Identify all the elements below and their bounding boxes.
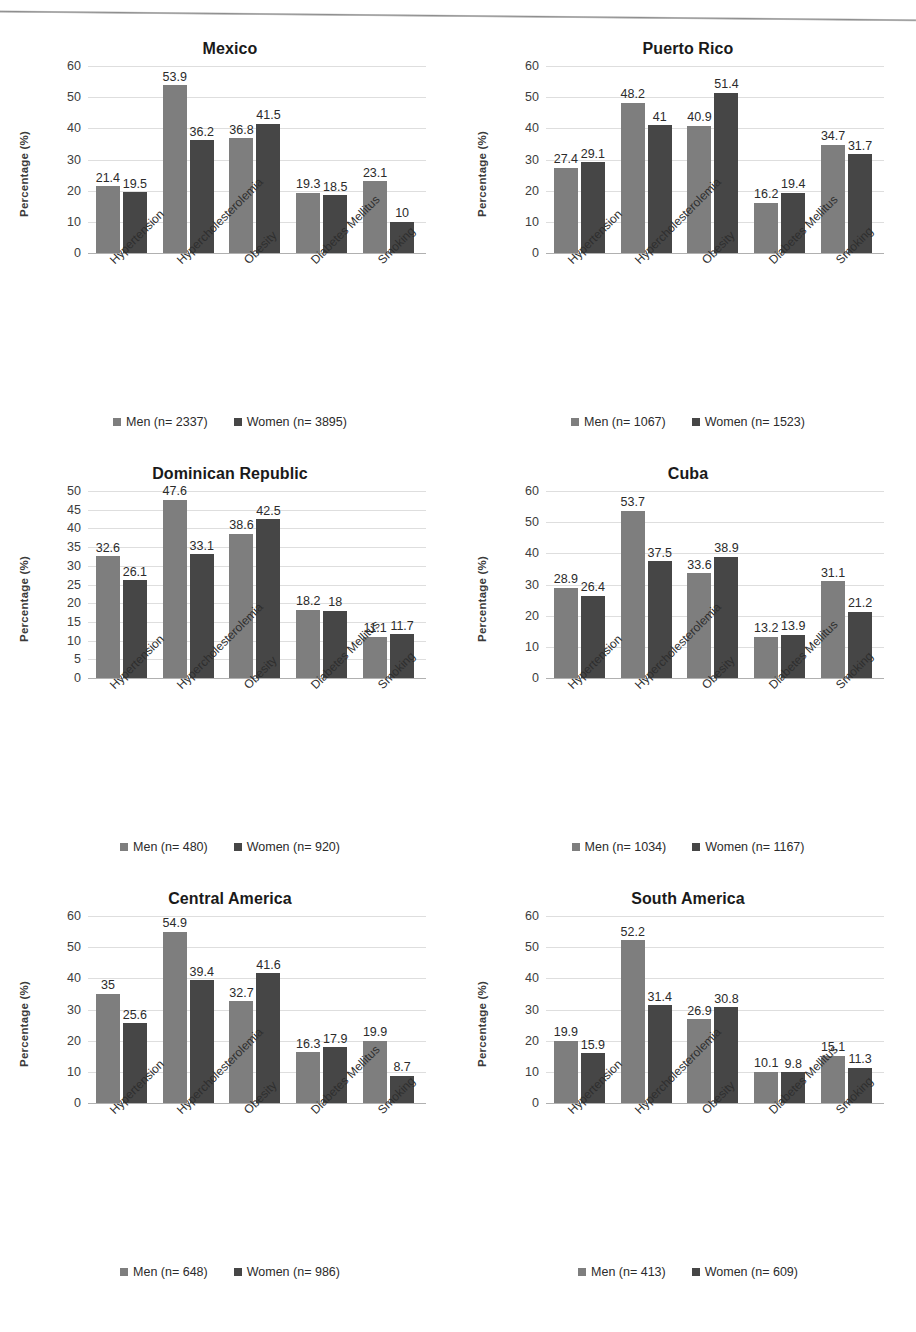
bar-women[interactable]: 11.7 <box>390 491 414 678</box>
x-axis-tick: Hypertension <box>546 678 613 700</box>
plot-area: Percentage (%)010203040506019.915.952.23… <box>488 910 888 1125</box>
bar-men[interactable]: 19.9 <box>363 916 387 1103</box>
bar-value-label: 34.7 <box>821 130 845 143</box>
y-axis-tick: 10 <box>67 215 81 229</box>
bar-men[interactable]: 18.2 <box>296 491 320 678</box>
bar-value-label: 54.9 <box>163 917 187 930</box>
bar-women[interactable]: 8.7 <box>390 916 414 1103</box>
bar-men[interactable]: 47.6 <box>163 491 187 678</box>
bar-men[interactable]: 16.3 <box>296 916 320 1103</box>
bar-men[interactable]: 35 <box>96 916 120 1103</box>
bar-men[interactable]: 34.7 <box>821 66 845 253</box>
bar-women[interactable]: 31.7 <box>848 66 872 253</box>
bar-fill <box>96 556 120 678</box>
y-axis-tick: 40 <box>525 971 539 985</box>
y-axis-label: Percentage (%) <box>18 949 30 1099</box>
bar-women[interactable]: 42.5 <box>256 491 280 678</box>
y-axis-tick: 0 <box>532 1096 539 1110</box>
bar-fill <box>296 1052 320 1103</box>
chart-panel-puerto-rico: Puerto RicoPercentage (%)010203040506027… <box>460 26 916 451</box>
bar-men[interactable]: 33.6 <box>687 491 711 678</box>
bar-men[interactable]: 32.6 <box>96 491 120 678</box>
bar-value-label: 10.1 <box>754 1057 778 1070</box>
y-axis-tick: 20 <box>525 184 539 198</box>
legend-item-women[interactable]: Women (n= 1167) <box>692 840 804 854</box>
bar-fill <box>554 1041 578 1103</box>
bar-value-label: 31.1 <box>821 567 845 580</box>
x-axis-tick: Hypercholesterolemia <box>613 1103 680 1125</box>
y-axis-tick: 40 <box>67 521 81 535</box>
bar-men[interactable]: 54.9 <box>163 916 187 1103</box>
bar-value-label: 41.5 <box>256 109 280 122</box>
x-axis-tick: Smoking <box>813 678 880 700</box>
bar-men[interactable]: 13.2 <box>754 491 778 678</box>
bar-women[interactable]: 41.6 <box>256 916 280 1103</box>
y-axis-tick: 20 <box>525 1034 539 1048</box>
y-axis-tick: 25 <box>67 578 81 592</box>
x-axis-tick: Diabetes Mellitus <box>746 678 813 700</box>
bar-men[interactable]: 31.1 <box>821 491 845 678</box>
bar-men[interactable]: 16.2 <box>754 66 778 253</box>
bar-men[interactable]: 19.3 <box>296 66 320 253</box>
bar-men[interactable]: 27.4 <box>554 66 578 253</box>
y-axis-tick: 0 <box>532 671 539 685</box>
bar-men[interactable]: 28.9 <box>554 491 578 678</box>
bar-men[interactable]: 11.1 <box>363 491 387 678</box>
bar-women[interactable]: 30.8 <box>714 916 738 1103</box>
bar-value-label: 48.2 <box>621 88 645 101</box>
legend-item-men[interactable]: Men (n= 1067) <box>571 415 666 429</box>
bar-value-label: 18.5 <box>323 181 347 194</box>
bar-value-label: 11.3 <box>848 1053 871 1066</box>
bar-men[interactable]: 23.1 <box>363 66 387 253</box>
x-axis-tick: Smoking <box>813 253 880 275</box>
legend-item-women[interactable]: Women (n= 920) <box>234 840 340 854</box>
plot-area: Percentage (%)0510152025303540455032.626… <box>30 485 430 700</box>
bar-group: 15.111.3 <box>813 916 880 1103</box>
y-axis-tick: 30 <box>67 1003 81 1017</box>
bar-value-label: 17.9 <box>323 1033 347 1046</box>
bar-men[interactable]: 10.1 <box>754 916 778 1103</box>
bar-women[interactable]: 11.3 <box>848 916 872 1103</box>
chart-legend: Men (n= 1034)Women (n= 1167) <box>460 840 916 854</box>
chart-legend: Men (n= 413)Women (n= 609) <box>460 1265 916 1279</box>
bar-women[interactable]: 51.4 <box>714 66 738 253</box>
bar-value-label: 26.1 <box>123 566 147 579</box>
bar-value-label: 47.6 <box>163 485 187 498</box>
bar-fill <box>621 511 645 678</box>
bar-women[interactable]: 41.5 <box>256 66 280 253</box>
legend-item-men[interactable]: Men (n= 2337) <box>113 415 208 429</box>
bar-men[interactable]: 32.7 <box>229 916 253 1103</box>
bar-men[interactable]: 40.9 <box>687 66 711 253</box>
bar-men[interactable]: 53.7 <box>621 491 645 678</box>
x-axis-ticks: HypertensionHypercholesterolemiaObesityD… <box>88 253 422 275</box>
bar-women[interactable]: 21.2 <box>848 491 872 678</box>
bar-men[interactable]: 21.4 <box>96 66 120 253</box>
x-axis-tick: Smoking <box>355 678 422 700</box>
bar-men[interactable]: 53.9 <box>163 66 187 253</box>
bar-men[interactable]: 19.9 <box>554 916 578 1103</box>
legend-label: Men (n= 1067) <box>584 415 666 429</box>
legend-item-men[interactable]: Men (n= 648) <box>120 1265 208 1279</box>
bar-men[interactable]: 52.2 <box>621 916 645 1103</box>
bar-women[interactable]: 38.9 <box>714 491 738 678</box>
bar-women[interactable]: 10 <box>390 66 414 253</box>
legend-swatch-icon <box>692 843 700 851</box>
bar-men[interactable]: 48.2 <box>621 66 645 253</box>
y-axis-tick: 60 <box>67 909 81 923</box>
x-axis-tick: Smoking <box>355 253 422 275</box>
legend-item-women[interactable]: Women (n= 609) <box>692 1265 798 1279</box>
bar-men[interactable]: 38.6 <box>229 491 253 678</box>
legend-label: Men (n= 648) <box>133 1265 208 1279</box>
bar-men[interactable]: 36.8 <box>229 66 253 253</box>
bar-men[interactable]: 15.1 <box>821 916 845 1103</box>
legend-item-men[interactable]: Men (n= 1034) <box>572 840 667 854</box>
legend-item-men[interactable]: Men (n= 480) <box>120 840 208 854</box>
x-axis-tick: Obesity <box>222 1103 289 1125</box>
bar-men[interactable]: 26.9 <box>687 916 711 1103</box>
legend-item-men[interactable]: Men (n= 413) <box>578 1265 666 1279</box>
legend-item-women[interactable]: Women (n= 986) <box>234 1265 340 1279</box>
legend-item-women[interactable]: Women (n= 1523) <box>692 415 805 429</box>
legend-item-women[interactable]: Women (n= 3895) <box>234 415 347 429</box>
y-axis-tick: 35 <box>67 540 81 554</box>
bar-group: 32.741.6 <box>222 916 289 1103</box>
